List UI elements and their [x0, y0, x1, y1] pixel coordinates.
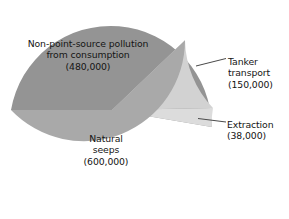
pie-label-extraction-value: (38,000)	[227, 130, 273, 141]
pie-label-nonpoint-source-value: (480,000)	[12, 61, 164, 72]
pie-label-tanker-transport-line1: Tanker	[228, 56, 273, 67]
pie-label-extraction-line1: Extraction	[227, 119, 273, 130]
pie-label-nonpoint-source: Non-point-source pollution from consumpt…	[12, 38, 164, 72]
pie-chart-graphic	[0, 0, 289, 219]
pie-chart: Non-point-source pollution from consumpt…	[0, 0, 289, 219]
pie-label-nonpoint-source-line2: from consumption	[12, 49, 164, 60]
pie-label-natural-seeps-value: (600,000)	[52, 156, 160, 167]
pie-label-extraction: Extraction (38,000)	[227, 119, 273, 142]
pie-label-tanker-transport: Tanker transport (150,000)	[228, 56, 273, 90]
pie-label-tanker-transport-value: (150,000)	[228, 79, 273, 90]
pie-label-natural-seeps-line1: Natural	[52, 133, 160, 144]
leader-line-tanker	[196, 59, 226, 67]
pie-label-natural-seeps-line2: seeps	[52, 144, 160, 155]
pie-label-nonpoint-source-line1: Non-point-source pollution	[12, 38, 164, 49]
pie-label-natural-seeps: Natural seeps (600,000)	[52, 133, 160, 167]
pie-label-tanker-transport-line2: transport	[228, 67, 273, 78]
